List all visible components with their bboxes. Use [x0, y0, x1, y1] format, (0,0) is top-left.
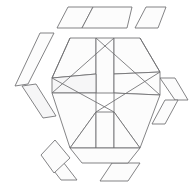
core-right-upper-wedge	[114, 72, 160, 95]
left-piece-lower	[22, 84, 56, 118]
detached-left-pieces-group	[15, 33, 56, 118]
bottom-right-piece	[100, 163, 140, 181]
core-top-left-wedge	[52, 38, 96, 78]
detached-bottom-right-pieces-group	[100, 163, 140, 181]
hexagon-dissection-figure	[0, 0, 193, 186]
core-bottom-apron	[70, 148, 140, 163]
left-piece-upper	[15, 33, 54, 86]
detached-top-pieces-group	[57, 7, 166, 28]
core-bottom-center-bar	[96, 112, 114, 148]
core-top-right-wedge	[114, 38, 160, 74]
right-piece-upper	[160, 78, 188, 100]
top-piece-right	[135, 7, 166, 28]
figure-root	[0, 0, 193, 186]
core-hexagon-pieces-group	[52, 38, 160, 163]
